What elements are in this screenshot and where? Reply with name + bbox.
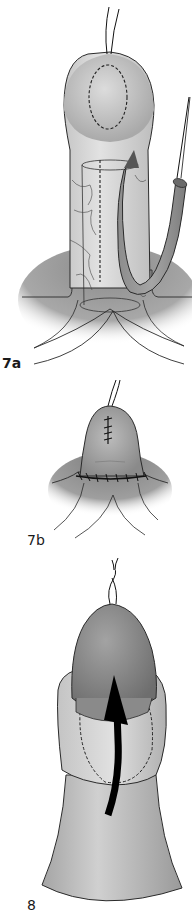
figure-7b: 7b	[0, 380, 192, 570]
needle	[177, 97, 189, 178]
traction-suture	[106, 7, 119, 54]
figure-label-8: 8	[27, 897, 36, 913]
figure-8-illustration	[0, 570, 192, 915]
figure-7a: 7a	[0, 0, 192, 380]
glans-closed	[80, 406, 144, 476]
figure-label-7a: 7a	[2, 355, 21, 371]
figure-8: 8	[0, 570, 192, 915]
traction-suture	[109, 570, 117, 604]
figure-7a-illustration	[0, 0, 192, 380]
figure-label-7b: 7b	[27, 532, 45, 548]
